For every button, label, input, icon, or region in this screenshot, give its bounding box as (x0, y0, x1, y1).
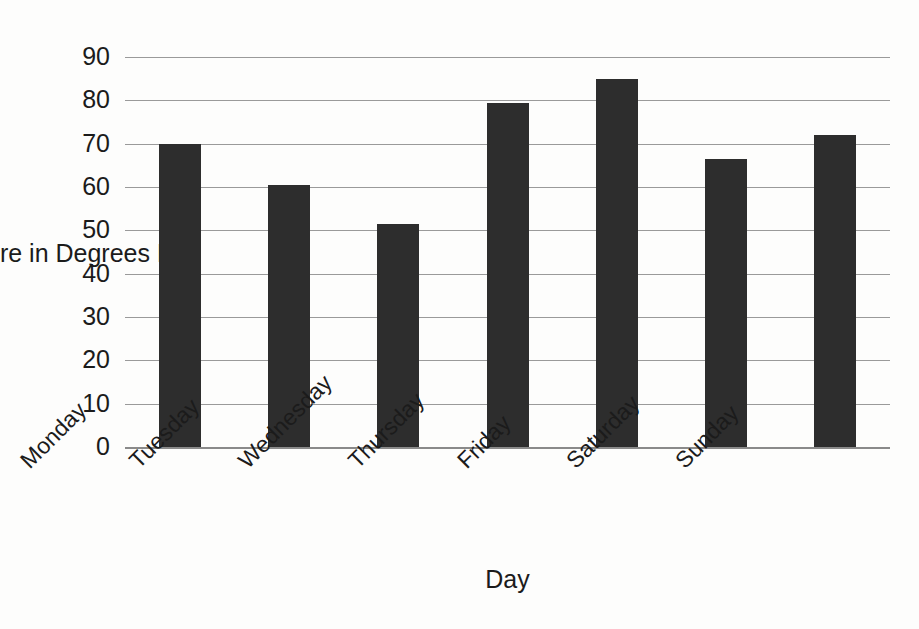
y-tick-label-90: 90 (50, 44, 110, 69)
y-tick-label-80: 80 (50, 87, 110, 112)
y-tick-label-60: 60 (50, 174, 110, 199)
y-tick-label-70: 70 (50, 131, 110, 156)
y-tick-label-50: 50 (50, 217, 110, 242)
x-axis-title: Day (125, 565, 890, 594)
bar (814, 135, 856, 447)
y-tick-label-30: 30 (50, 304, 110, 329)
bar-chart-figure: Temperature in Degrees F 010203040506070… (0, 0, 919, 629)
y-tick-label-40: 40 (50, 261, 110, 286)
x-axis-tick-labels: MondayTuesdayWednesdayThursdayFridaySatu… (125, 447, 890, 557)
bar-series (125, 57, 890, 447)
